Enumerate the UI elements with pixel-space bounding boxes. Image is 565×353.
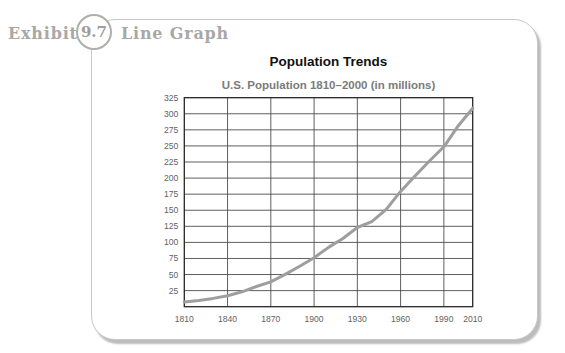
svg-text:250: 250 [164, 141, 179, 151]
svg-text:300: 300 [164, 109, 179, 119]
svg-text:1930: 1930 [348, 314, 367, 324]
svg-text:75: 75 [169, 253, 179, 263]
svg-text:1960: 1960 [391, 314, 410, 324]
svg-text:1990: 1990 [434, 314, 453, 324]
svg-text:125: 125 [164, 221, 179, 231]
svg-text:225: 225 [164, 157, 179, 167]
svg-text:275: 275 [164, 125, 179, 135]
svg-text:150: 150 [164, 205, 179, 215]
svg-text:325: 325 [164, 93, 179, 103]
line-chart: 2550751001251501752002252502753003251810… [0, 0, 565, 353]
svg-text:200: 200 [164, 173, 179, 183]
svg-text:1810: 1810 [175, 314, 194, 324]
svg-text:175: 175 [164, 189, 179, 199]
svg-text:2010: 2010 [463, 314, 482, 324]
exhibit-label: Line Graph [121, 24, 229, 43]
svg-text:1870: 1870 [261, 314, 280, 324]
page: Exhibit 9.7 Line Graph Population Trends… [0, 0, 565, 353]
exhibit-number-badge: 9.7 [76, 14, 112, 50]
svg-text:1900: 1900 [305, 314, 324, 324]
svg-text:1840: 1840 [218, 314, 237, 324]
svg-text:50: 50 [169, 270, 179, 280]
svg-text:100: 100 [164, 237, 179, 247]
exhibit-prefix: Exhibit [8, 24, 78, 43]
svg-text:25: 25 [169, 286, 179, 296]
exhibit-number: 9.7 [81, 23, 107, 41]
